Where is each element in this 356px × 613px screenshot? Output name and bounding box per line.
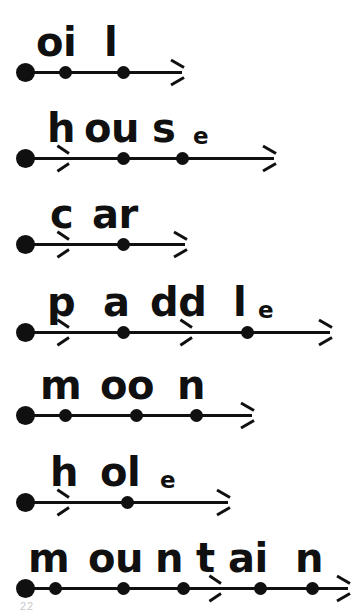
silent-grapheme: e xyxy=(258,299,273,322)
word-letters: oil xyxy=(0,16,356,62)
grapheme: a xyxy=(103,282,130,322)
grapheme: dd xyxy=(150,282,206,322)
arrow-start-dot xyxy=(16,579,35,598)
word-letters: paddle xyxy=(0,276,356,322)
mid-arrowhead-icon xyxy=(55,150,68,167)
worksheet-canvas: oilhousecarpaddlemoonholemountain 22 xyxy=(0,0,356,613)
segmentation-arrow xyxy=(0,579,356,597)
mid-arrowhead-icon xyxy=(178,324,191,341)
phoneme-dot xyxy=(130,409,143,422)
phoneme-dot xyxy=(306,582,319,595)
mid-arrowhead-icon xyxy=(55,236,68,253)
phoneme-dot xyxy=(59,66,72,79)
segmentation-arrow xyxy=(0,493,356,511)
word-letters: car xyxy=(0,188,356,234)
grapheme: n xyxy=(177,365,205,405)
grapheme: p xyxy=(47,282,75,322)
segmentation-arrow xyxy=(0,235,356,253)
segmentation-arrow xyxy=(0,323,356,341)
arrow-start-dot xyxy=(16,493,35,512)
grapheme: n xyxy=(295,538,323,578)
segmentation-arrow xyxy=(0,63,356,81)
end-arrowhead-icon xyxy=(261,150,275,167)
silent-grapheme: e xyxy=(193,125,208,148)
segmentation-arrow xyxy=(0,406,356,424)
grapheme: ar xyxy=(92,194,138,234)
grapheme: l xyxy=(104,22,117,62)
grapheme: h xyxy=(47,108,75,148)
grapheme: ou xyxy=(88,538,143,578)
end-arrowhead-icon xyxy=(169,64,183,81)
grapheme: ou xyxy=(84,108,139,148)
phoneme-dot xyxy=(241,326,254,339)
phoneme-dot xyxy=(176,152,189,165)
mid-arrowhead-icon xyxy=(207,580,220,597)
word-letters: mountain xyxy=(0,532,356,578)
grapheme: m xyxy=(40,365,81,405)
arrow-start-dot xyxy=(16,406,35,425)
arrow-start-dot xyxy=(16,323,35,342)
arrow-start-dot xyxy=(16,235,35,254)
silent-grapheme: e xyxy=(160,469,175,492)
phoneme-dot xyxy=(117,152,130,165)
mid-arrowhead-icon xyxy=(55,324,68,341)
end-arrowhead-icon xyxy=(172,236,186,253)
phoneme-dot xyxy=(59,409,72,422)
phoneme-dot xyxy=(117,66,130,79)
phoneme-dot xyxy=(177,582,190,595)
phoneme-dot xyxy=(117,326,130,339)
word-letters: house xyxy=(0,102,356,148)
end-arrowhead-icon xyxy=(317,324,331,341)
grapheme: oo xyxy=(100,365,154,405)
grapheme: l xyxy=(233,282,246,322)
phoneme-dot xyxy=(121,496,134,509)
grapheme: oi xyxy=(36,22,76,62)
end-arrowhead-icon xyxy=(239,407,253,424)
phoneme-dot xyxy=(190,409,203,422)
arrow-rail xyxy=(25,243,185,246)
grapheme: m xyxy=(28,538,69,578)
grapheme: h xyxy=(50,452,78,492)
grapheme: n xyxy=(155,538,183,578)
segmentation-arrow xyxy=(0,149,356,167)
arrow-start-dot xyxy=(16,149,35,168)
phoneme-dot xyxy=(117,238,130,251)
end-arrowhead-icon xyxy=(215,494,229,511)
grapheme: ai xyxy=(228,538,268,578)
word-letters: moon xyxy=(0,359,356,405)
grapheme: c xyxy=(50,194,73,234)
word-letters: hole xyxy=(0,446,356,492)
end-arrowhead-icon xyxy=(335,580,349,597)
arrow-rail xyxy=(25,71,182,74)
phoneme-dot xyxy=(49,582,62,595)
grapheme: ol xyxy=(100,452,140,492)
grapheme: t xyxy=(196,538,215,578)
phoneme-dot xyxy=(117,582,130,595)
page-number-artifact: 22 xyxy=(20,600,34,612)
grapheme: s xyxy=(152,108,175,148)
arrow-start-dot xyxy=(16,63,35,82)
phoneme-dot xyxy=(254,582,267,595)
mid-arrowhead-icon xyxy=(55,494,68,511)
